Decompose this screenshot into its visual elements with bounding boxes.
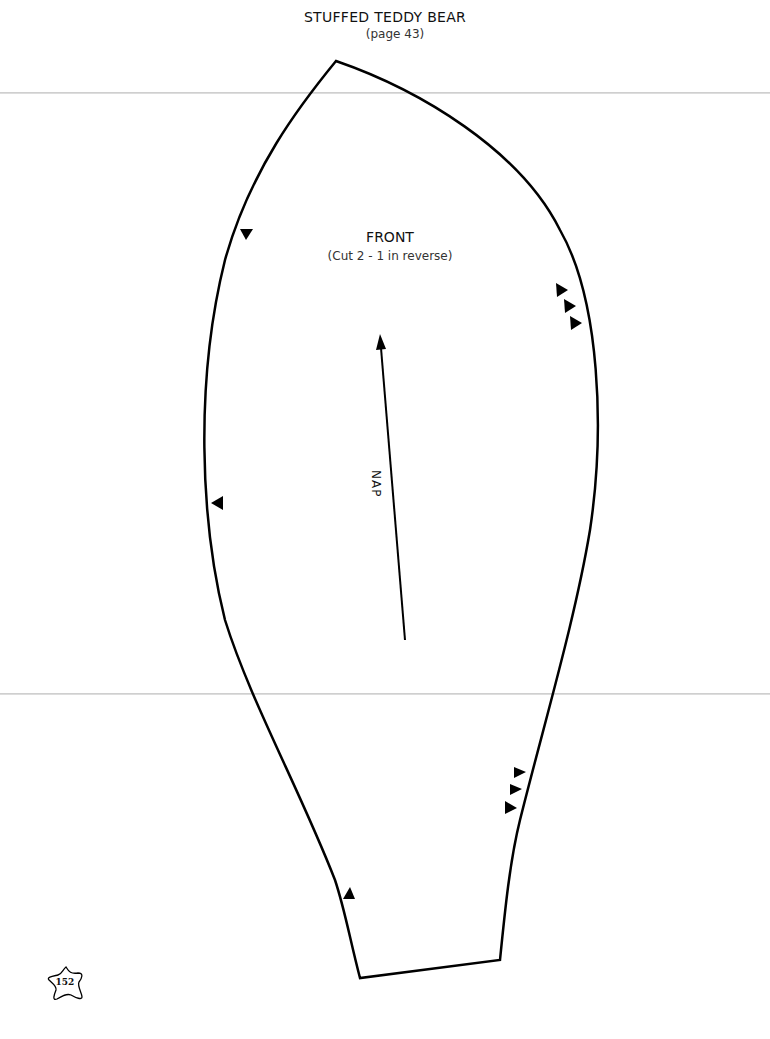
notch-triangle-icon: [240, 229, 253, 240]
cutting-instructions: (Cut 2 - 1 in reverse): [300, 249, 480, 263]
front-piece-outline: [204, 61, 597, 978]
notch-triangle-icon: [556, 283, 582, 330]
notch-triangle-icon: [343, 887, 355, 899]
piece-name: FRONT: [300, 229, 480, 245]
page-number: 152: [45, 977, 85, 987]
pattern-outline: [0, 0, 770, 1039]
nap-label: NAP: [369, 470, 383, 497]
pattern-page: STUFFED TEDDY BEAR (page 43): [0, 0, 770, 1039]
notch-triangle-icon: [211, 496, 223, 510]
